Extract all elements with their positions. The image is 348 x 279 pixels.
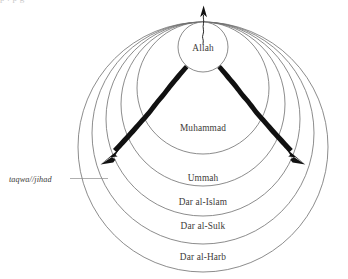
downward-left-arrow — [101, 65, 189, 165]
annotation-label-taqwa-jihad: taqwa//jihad — [9, 175, 52, 184]
core-label-allah: Allah — [192, 43, 214, 53]
ring-label-muhammad: Muhammad — [180, 123, 226, 133]
ring-label-dar-al-islam: Dar al-Islam — [179, 197, 228, 207]
concentric-circles-diagram: Allah Muhammad Ummah Dar al-Islam Dar al… — [0, 0, 348, 279]
ring-label-dar-al-harb: Dar al-Harb — [180, 252, 227, 262]
ring-label-ummah: Ummah — [188, 173, 219, 183]
ring-label-dar-al-sulk: Dar al-Sulk — [181, 221, 226, 231]
